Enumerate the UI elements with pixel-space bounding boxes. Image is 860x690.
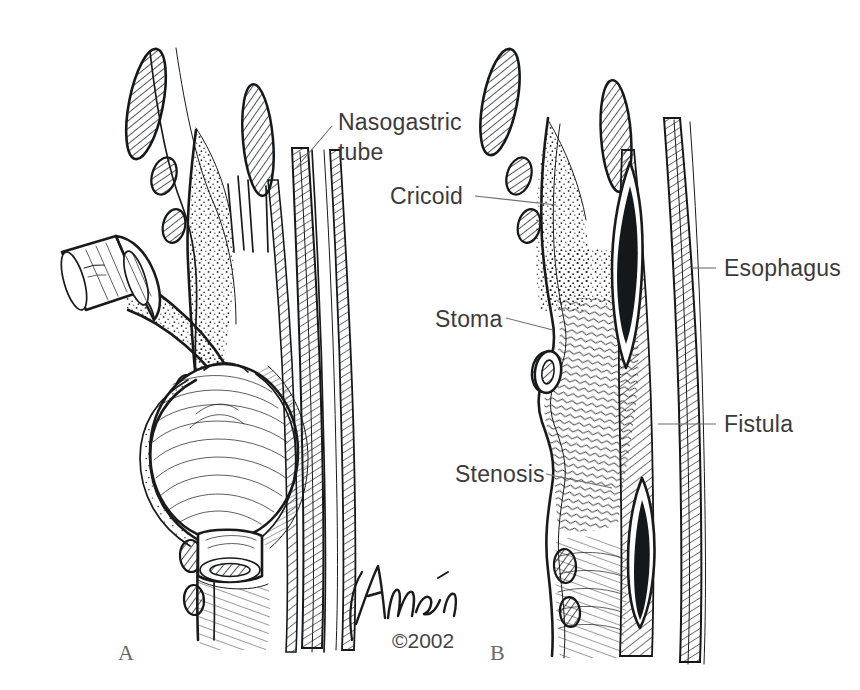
copyright-text: ©2002 [392,629,454,652]
label-esophagus-text: Esophagus [724,255,841,281]
illustration-canvas: ©2002 A [0,0,860,690]
label-nasogastric-tube: Nasogastric tube [296,109,462,168]
figure-root: ©2002 A [0,0,860,690]
tracheostomy-tube-a [56,236,308,650]
panel-b-illustration: B [473,46,705,665]
label-fistula-text: Fistula [724,411,793,437]
leader-stoma [506,318,553,330]
panel-letter-a: A [118,640,134,665]
label-cricoid: Cricoid [390,183,556,209]
label-stenosis-text: Stenosis [455,461,545,487]
label-esophagus: Esophagus [692,255,841,281]
label-nasogastric-tube-line2: tube [338,139,384,165]
panel-letter-b: B [490,640,505,665]
panel-a-illustration: ©2002 A [56,46,456,665]
label-stoma-text: Stoma [435,306,502,332]
label-cricoid-text: Cricoid [390,183,463,209]
esophagus-b [664,118,706,664]
tube-distal-tip-a [198,530,262,582]
label-stoma: Stoma [435,306,553,332]
panel-a-esophagus [292,148,356,652]
label-nasogastric-tube-line1: Nasogastric [338,109,462,135]
cricoid-cartilage-b [473,46,527,159]
